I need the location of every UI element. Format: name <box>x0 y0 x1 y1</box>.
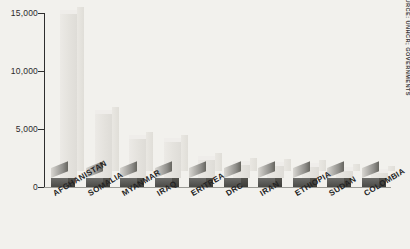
bar-chart: 05,00010,00015,000 AFGHANISTANSOMALIAMYA… <box>0 0 410 249</box>
y-tick-10000 <box>38 71 45 72</box>
bar-group <box>327 10 351 187</box>
bar-column-side <box>215 153 222 171</box>
source-note: SOURCE: UNHCR; GOVERNMENTS <box>403 0 409 96</box>
bar-column-face <box>60 14 77 178</box>
y-tick-15000 <box>38 13 45 14</box>
bar-column-side <box>319 160 326 171</box>
y-tick-label-10000: 10,000 <box>11 67 38 76</box>
bar-group <box>86 10 110 187</box>
bar-group <box>51 10 75 187</box>
y-tick-label-5000: 5,000 <box>16 125 38 134</box>
y-tick-5000 <box>38 129 45 130</box>
bar-column-side <box>181 135 188 171</box>
bar-column-side <box>284 159 291 171</box>
bar-column-side <box>146 132 153 171</box>
bar-column-top <box>60 10 77 14</box>
bar-group <box>224 10 248 187</box>
bar-column-side <box>77 7 84 171</box>
bar-column-side <box>250 158 257 171</box>
bar-group <box>362 10 386 187</box>
bar-group <box>155 10 179 187</box>
bar-column-top <box>198 156 215 160</box>
bar-column-top <box>129 135 146 139</box>
bar-group <box>258 10 282 187</box>
bar-group <box>189 10 213 187</box>
bar-column-top <box>95 110 112 114</box>
y-tick-label-0: 0 <box>33 183 38 192</box>
bar-column-side <box>353 164 360 171</box>
bar-group <box>293 10 317 187</box>
bar-column-top <box>164 138 181 142</box>
plot-area <box>45 10 390 187</box>
bar-group <box>120 10 144 187</box>
y-tick-label-15000: 15,000 <box>11 9 38 18</box>
bar-column-side <box>112 107 119 171</box>
